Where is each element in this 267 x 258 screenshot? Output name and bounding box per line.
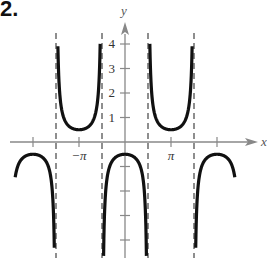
- secant-branch: [150, 44, 192, 130]
- y-axis-label: y: [119, 3, 127, 18]
- x-tick-label: −π: [71, 148, 87, 163]
- secant-branch: [196, 154, 235, 247]
- y-tick-label: 3: [109, 61, 116, 76]
- secant-graph: xy−ππ4321: [0, 0, 267, 258]
- y-tick-label: 4: [109, 36, 116, 51]
- y-tick-label: 2: [109, 85, 116, 100]
- y-tick-label: 1: [109, 110, 116, 125]
- secant-branch: [15, 154, 54, 247]
- secant-branch: [58, 44, 100, 130]
- x-axis-label: x: [260, 134, 267, 149]
- x-tick-label: π: [168, 148, 175, 163]
- y-axis-arrow-icon: [121, 22, 129, 35]
